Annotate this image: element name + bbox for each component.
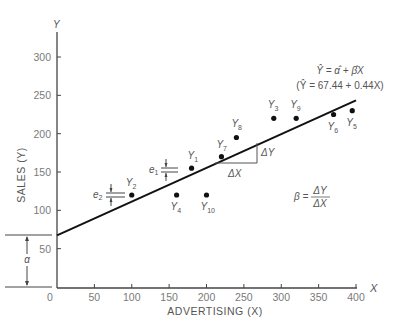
data-point-label: Y7 [216, 139, 227, 152]
x-tick-label: 300 [272, 291, 290, 303]
x-tick-label: 150 [160, 291, 178, 303]
y-tick-label: 100 [33, 204, 51, 216]
data-point [204, 192, 209, 197]
y-tick-label: 50 [39, 243, 51, 255]
chart-canvas: Y 50100150200250300 SALES (Y) 5010015020… [0, 0, 414, 333]
data-point [174, 192, 179, 197]
regression-equation-fitted: (Ŷ = 67.44 + 0.44X) [296, 79, 383, 91]
data-point-label: Y3 [268, 99, 279, 112]
x-ticks: 50100150200250300350400 [89, 284, 365, 303]
y-axis-title: SALES (Y) [15, 147, 27, 202]
data-point [350, 108, 355, 113]
beta-lhs: β = [293, 191, 308, 202]
x-tick-label: 250 [235, 291, 253, 303]
data-point-label: Y8 [231, 118, 242, 131]
data-point-label: Y1 [188, 150, 199, 163]
data-point [271, 116, 276, 121]
beta-formula: β = ΔY ΔX [293, 185, 330, 209]
data-point [331, 112, 336, 117]
origin-label: 0 [47, 291, 53, 303]
regression-chart: Y 50100150200250300 SALES (Y) 5010015020… [0, 0, 414, 333]
data-point [129, 192, 134, 197]
x-tick-label: 350 [310, 291, 328, 303]
y-tick-label: 250 [33, 89, 51, 101]
delta-y-label: ΔY [260, 147, 276, 158]
regression-equation-general: Ŷ = α̂ + β̂X [316, 64, 364, 76]
data-point [189, 166, 194, 171]
y-axis-symbol: Y [53, 19, 61, 30]
x-axis-title: ADVERTISING (X) [167, 305, 262, 317]
data-point [219, 154, 224, 159]
regression-line [57, 100, 356, 235]
x-tick-label: 100 [123, 291, 141, 303]
x-axis: 50100150200250300350400 0 X ADVERTISING … [47, 282, 378, 317]
y-tick-label: 200 [33, 128, 51, 140]
data-point [294, 116, 299, 121]
data-point [234, 135, 239, 140]
data-point-label: Y5 [346, 117, 357, 130]
residual-e2-marker [106, 184, 125, 206]
beta-denominator: ΔX [312, 198, 327, 209]
data-point-label: Y9 [290, 99, 301, 112]
x-tick-label: 200 [198, 291, 216, 303]
data-point-label: Y6 [328, 121, 339, 134]
x-tick-label: 400 [347, 291, 365, 303]
data-point-label: Y10 [201, 201, 216, 214]
residual-e2-label: e2 [93, 189, 103, 201]
data-point-label: Y2 [126, 177, 137, 190]
data-point-label: Y4 [171, 201, 182, 214]
y-tick-label: 300 [33, 51, 51, 63]
beta-numerator: ΔY [312, 185, 328, 196]
y-axis: Y 50100150200250300 SALES (Y) [15, 19, 61, 288]
delta-x-label: ΔX [227, 168, 242, 179]
x-axis-symbol: X [369, 282, 378, 294]
alpha-label: α [24, 254, 30, 265]
x-tick-label: 50 [89, 291, 101, 303]
y-tick-label: 150 [33, 166, 51, 178]
residual-e1-label: e1 [149, 164, 159, 176]
residual-e1-marker [161, 159, 178, 181]
